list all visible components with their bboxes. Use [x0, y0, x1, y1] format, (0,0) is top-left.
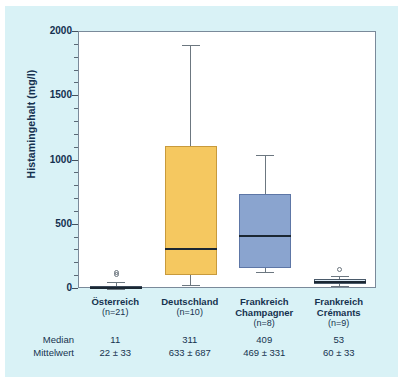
whisker-upper	[265, 155, 266, 194]
box-2	[165, 146, 217, 275]
category-name-line2: Champagner	[227, 307, 302, 318]
category-name-line2: Crémants	[302, 307, 377, 318]
sample-size-label: (n=10)	[153, 307, 228, 318]
page-margin-top	[0, 0, 403, 6]
y-axis-label: Histamingehalt (mg/l)	[25, 29, 37, 219]
category-name-line1: Frankreich	[302, 296, 377, 307]
category-header-4: FrankreichCrémants(n=9)	[302, 296, 377, 329]
whisker-cap-upper	[331, 276, 349, 277]
mittelwert-value-2: 633 ± 687	[153, 347, 228, 358]
summary-table: Österreich(n=21)Deutschland(n=10)Frankre…	[0, 292, 403, 382]
box-3	[239, 194, 291, 268]
whisker-cap-lower	[331, 286, 349, 287]
median-value-2: 311	[153, 334, 228, 345]
category-name-line1: Frankreich	[227, 296, 302, 307]
category-header-3: FrankreichChampagner(n=8)	[227, 296, 302, 329]
y-tick-label: 2000	[28, 25, 72, 36]
sample-size-label: (n=8)	[227, 318, 302, 329]
row-label-mittelwert: Mittelwert	[0, 347, 74, 358]
y-tick-major	[72, 288, 78, 289]
median-value-3: 409	[227, 334, 302, 345]
whisker-cap-upper	[107, 282, 125, 283]
median-value-4: 53	[302, 334, 377, 345]
median-line-4	[314, 281, 366, 283]
whisker-cap-lower	[256, 272, 274, 273]
median-value-1: 11	[78, 334, 153, 345]
mittelwert-value-3: 469 ± 331	[227, 347, 302, 358]
whisker-cap-upper	[182, 45, 200, 46]
sample-size-label: (n=9)	[302, 318, 377, 329]
median-line-3	[239, 235, 291, 237]
row-label-median: Median	[0, 334, 74, 345]
plot-frame	[78, 31, 376, 288]
whisker-cap-lower	[107, 289, 125, 290]
whisker-cap-lower	[182, 285, 200, 286]
plot-area	[79, 32, 375, 287]
category-name-line1: Österreich	[78, 296, 153, 307]
mittelwert-value-1: 22 ± 33	[78, 347, 153, 358]
y-tick-label: 1500	[28, 89, 72, 100]
category-name-line1: Deutschland	[153, 296, 228, 307]
median-line-2	[165, 248, 217, 250]
mittelwert-value-4: 60 ± 33	[302, 347, 377, 358]
y-tick-label: 500	[28, 218, 72, 229]
median-line-1	[90, 287, 142, 289]
whisker-upper	[190, 45, 191, 147]
figure-container: Histamingehalt (mg/l) 0500100015002000 Ö…	[0, 0, 403, 385]
whisker-cap-upper	[256, 155, 274, 156]
category-header-1: Österreich(n=21)	[78, 296, 153, 318]
whisker-lower	[190, 275, 191, 285]
category-header-2: Deutschland(n=10)	[153, 296, 228, 318]
outlier-point	[337, 267, 342, 272]
y-tick-label: 1000	[28, 154, 72, 165]
sample-size-label: (n=21)	[78, 307, 153, 318]
outlier-point	[114, 270, 119, 275]
